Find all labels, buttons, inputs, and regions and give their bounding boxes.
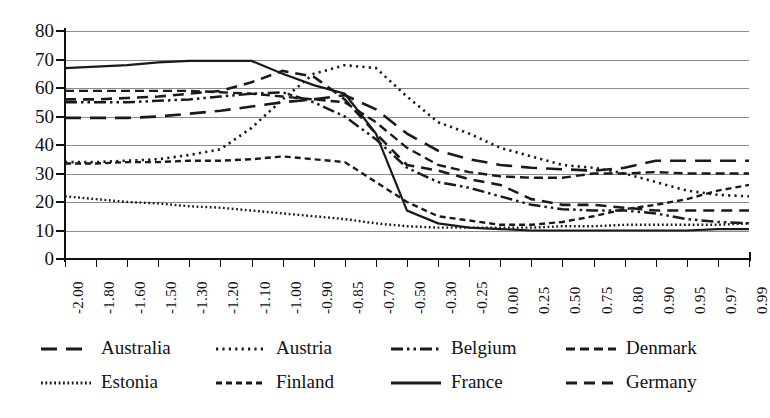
legend-swatch-solid-icon — [390, 375, 442, 387]
legend-swatch-medium-dash-icon — [565, 375, 617, 387]
legend-item-belgium[interactable]: Belgium — [390, 338, 565, 357]
legend-item-germany[interactable]: Germany — [565, 372, 740, 391]
legend-item-denmark[interactable]: Denmark — [565, 338, 740, 357]
legend-item-france[interactable]: France — [390, 372, 565, 391]
legend-swatch-dash-dot-dot-icon — [390, 341, 442, 353]
chart-legend: AustraliaAustriaBelgiumDenmarkEstoniaFin… — [40, 330, 740, 398]
legend-label: Belgium — [451, 338, 516, 357]
series-line-france — [65, 61, 749, 231]
legend-item-austria[interactable]: Austria — [215, 338, 390, 357]
series-line-austria — [65, 65, 749, 196]
legend-label: Australia — [101, 338, 171, 357]
legend-label: Finland — [276, 372, 334, 391]
legend-item-finland[interactable]: Finland — [215, 372, 390, 391]
legend-swatch-long-dash-icon — [40, 341, 92, 353]
legend-label: France — [451, 372, 503, 391]
legend-swatch-fine-dots-icon — [40, 375, 92, 387]
legend-label: Estonia — [101, 372, 158, 391]
legend-swatch-dashed-icon — [565, 341, 617, 353]
series-line-australia — [65, 95, 749, 171]
legend-item-estonia[interactable]: Estonia — [40, 372, 215, 391]
legend-item-australia[interactable]: Australia — [40, 338, 215, 357]
legend-swatch-dotted-icon — [215, 341, 267, 353]
legend-label: Denmark — [626, 338, 697, 357]
legend-label: Austria — [276, 338, 332, 357]
legend-label: Germany — [626, 372, 697, 391]
legend-swatch-small-dash-icon — [215, 375, 267, 387]
legend-row: EstoniaFinlandFranceGermany — [40, 364, 740, 398]
legend-row: AustraliaAustriaBelgiumDenmark — [40, 330, 740, 364]
